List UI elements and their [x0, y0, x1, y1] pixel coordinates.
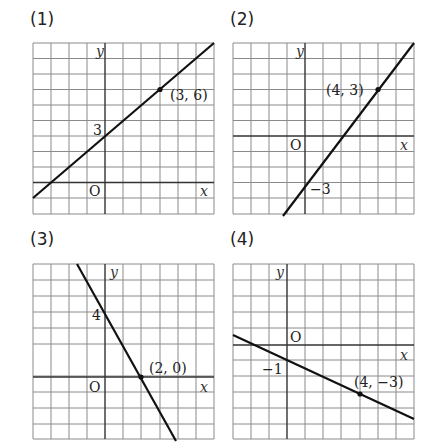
point-4-3: [375, 87, 380, 92]
svg-text:O: O: [89, 183, 100, 199]
panel-label-3: (3): [30, 229, 54, 249]
point-2-0: [138, 374, 143, 379]
svg-text:y: y: [275, 264, 285, 280]
svg-text:(2, 0): (2, 0): [149, 360, 187, 376]
svg-text:x: x: [200, 379, 208, 395]
grid-4: [233, 264, 414, 439]
svg-text:x: x: [200, 183, 208, 199]
grid-3: [33, 264, 214, 439]
svg-text:(4, 3): (4, 3): [326, 82, 364, 98]
point-4-neg3: [357, 391, 362, 396]
svg-text:(4, −3): (4, −3): [354, 374, 403, 390]
svg-text:x: x: [400, 347, 408, 363]
svg-text:y: y: [109, 264, 119, 280]
graph-line-2: [283, 43, 414, 216]
graph-1: y x O 3 (3, 6) y x O −3 (4, 3): [0, 0, 435, 444]
svg-text:4: 4: [92, 307, 101, 323]
svg-text:−3: −3: [310, 181, 331, 197]
panel-label-4: (4): [230, 229, 254, 249]
svg-text:y: y: [295, 43, 305, 59]
graph-line-3: [77, 264, 176, 441]
svg-text:O: O: [89, 379, 100, 395]
panel-label-2: (2): [230, 9, 254, 29]
svg-text:−1: −1: [262, 361, 283, 377]
point-3-6: [157, 87, 162, 92]
svg-text:(3, 6): (3, 6): [170, 87, 208, 103]
svg-text:O: O: [290, 329, 301, 345]
svg-text:3: 3: [93, 122, 102, 138]
svg-text:x: x: [400, 137, 408, 153]
svg-text:O: O: [290, 137, 301, 153]
grid-1: [33, 43, 214, 214]
svg-text:y: y: [95, 43, 105, 59]
